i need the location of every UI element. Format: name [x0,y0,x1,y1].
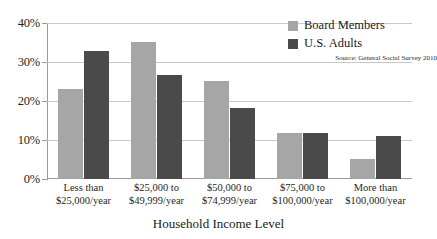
y-axis-tick-mark [42,62,47,63]
y-axis-tick-label: 20% [0,95,40,107]
y-axis-tick-label: 0% [0,173,40,185]
y-axis-tick-mark [42,101,47,102]
legend-label-board-members: Board Members [304,19,385,32]
bar [350,159,375,179]
bar-chart: 0%10%20%30%40% Less than$25,000/year$25,… [0,0,437,239]
x-axis-category-label: More than$100,000/year [339,182,412,207]
chart-legend: Board Members U.S. Adults Source: Genera… [288,19,437,63]
bar [277,133,302,179]
x-axis-category-labels: Less than$25,000/year$25,000 to$49,999/y… [47,182,412,216]
y-axis-tick-label: 40% [0,17,40,29]
legend-swatch-icon-us-adults [288,39,298,49]
x-axis-title: Household Income Level [0,216,437,232]
legend-item-board-members: Board Members [288,19,437,32]
legend-item-us-adults: U.S. Adults [288,37,437,50]
bar [376,136,401,179]
bar [58,89,83,179]
y-axis-tick-mark [42,140,47,141]
bar [204,81,229,179]
y-axis-tick-labels: 0%10%20%30%40% [0,0,40,239]
x-axis-category-label: Less than$25,000/year [47,182,120,207]
x-axis-category-label: $75,000 to$100,000/year [266,182,339,207]
bar [84,51,109,179]
bar [131,42,156,179]
y-axis-tick-mark [42,23,47,24]
x-axis-category-label: $25,000 to$49,999/year [120,182,193,207]
bar [303,133,328,179]
bar [230,108,255,179]
legend-swatch-icon-board-members [288,21,298,31]
source-note: Source: General Social Survey 2010 [304,54,437,63]
bar [157,75,182,179]
y-axis-tick-mark [42,179,47,180]
y-axis-tick-label: 10% [0,134,40,146]
legend-label-us-adults: U.S. Adults [304,37,362,50]
y-axis-tick-label: 30% [0,56,40,68]
x-axis-category-label: $50,000 to$74,999/year [193,182,266,207]
